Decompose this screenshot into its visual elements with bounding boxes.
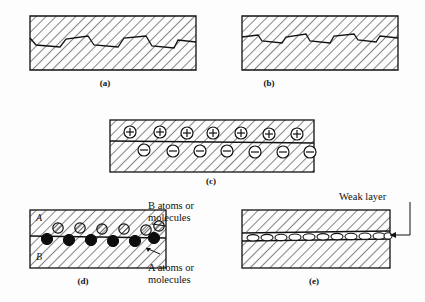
label-a-atoms-line2: molecules <box>148 274 194 286</box>
panel-d-caption: (d) <box>63 276 103 286</box>
label-a-atoms-line1: A atoms or <box>148 262 194 274</box>
panel-d-drawing: A B <box>28 208 168 270</box>
panel-b <box>240 14 400 74</box>
panel-d: A B <box>28 208 168 270</box>
label-weak-layer: Weak layer <box>339 191 386 203</box>
panel-c <box>108 118 316 174</box>
panel-e <box>240 208 392 270</box>
label-b-atoms-line2: molecules <box>148 212 194 224</box>
label-b-atoms: B atoms or molecules <box>148 200 194 224</box>
panel-c-drawing <box>108 118 316 174</box>
panel-d-region-label-a: A <box>35 212 43 223</box>
panel-b-drawing <box>240 14 400 74</box>
figure-adhesion-mechanisms: (a) (b) <box>0 0 425 302</box>
panel-a-drawing <box>28 14 198 74</box>
panel-b-caption: (b) <box>249 78 289 88</box>
label-a-atoms: A atoms or molecules <box>148 262 194 286</box>
panel-e-drawing <box>240 208 392 270</box>
panel-a-caption: (a) <box>85 78 125 88</box>
label-b-atoms-line1: B atoms or <box>148 200 194 212</box>
panel-e-leader-line <box>390 202 410 235</box>
panel-c-caption: (c) <box>191 176 231 186</box>
panel-a <box>28 14 198 74</box>
panel-e-caption: (e) <box>294 276 334 286</box>
panel-d-region-label-b: B <box>36 251 42 262</box>
